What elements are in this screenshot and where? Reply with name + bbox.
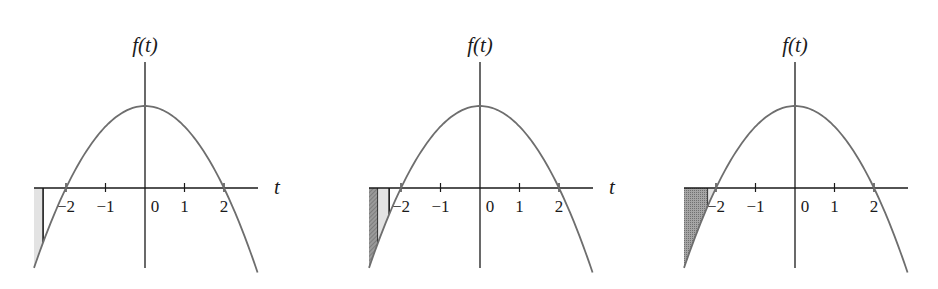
x-tick-label: 0 [801, 197, 810, 216]
x-tick-label: 0 [151, 197, 160, 216]
panel-1: −2−1012f(t)t [0, 0, 310, 289]
x-tick-label: 0 [486, 197, 495, 216]
panel-3: −2−1012f(t) [650, 0, 938, 289]
y-axis-label: f(t) [782, 33, 808, 57]
x-tick-label: 1 [830, 197, 839, 216]
x-tick-label: −1 [431, 197, 449, 216]
parabola-curve [369, 106, 593, 273]
graph-svg: −2−1012f(t)t [0, 0, 310, 289]
y-axis-label: f(t) [467, 33, 493, 57]
x-tick-label: 2 [555, 197, 564, 216]
x-tick-label: 1 [180, 197, 189, 216]
graph-svg: −2−1012f(t) [650, 0, 938, 289]
x-axis-label: t [274, 175, 281, 199]
x-axis-label: t [609, 175, 616, 199]
x-tick-label: −1 [96, 197, 114, 216]
graph-svg: −2−1012f(t)t [332, 0, 642, 289]
x-tick-label: −1 [746, 197, 764, 216]
x-tick-label: 1 [515, 197, 524, 216]
parabola-curve [34, 106, 258, 273]
shaded-strip-light [378, 188, 389, 242]
x-tick-label: 2 [220, 197, 229, 216]
y-axis-label: f(t) [132, 33, 158, 57]
x-tick-label: 2 [870, 197, 879, 216]
parabola-curve [684, 106, 908, 273]
panel-2: −2−1012f(t)t [332, 0, 642, 289]
